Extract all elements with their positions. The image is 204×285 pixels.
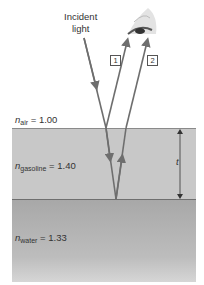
thickness-label: t: [176, 156, 179, 167]
ray-1-label: 1: [110, 55, 121, 66]
water-index-label: nwater = 1.33: [15, 232, 67, 244]
gasoline-index-label: ngasoline = 1.40: [15, 160, 76, 172]
incident-light-label: Incident light: [64, 11, 97, 35]
ray-2: [126, 42, 147, 128]
eye-icon: [128, 8, 156, 34]
air-index-label: nair = 1.00: [15, 114, 57, 126]
ray-2-label: 2: [147, 55, 158, 66]
